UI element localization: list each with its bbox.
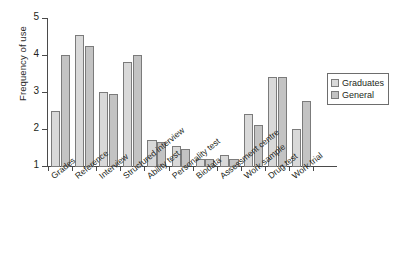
legend-label-general: General bbox=[342, 90, 374, 101]
bar bbox=[75, 35, 84, 167]
x-tick-0 bbox=[48, 166, 49, 171]
bar-chart: Frequency of use 12345 GradesReferenceIn… bbox=[0, 0, 401, 258]
y-tick-3: 3 bbox=[42, 92, 47, 93]
legend-swatch-graduates bbox=[331, 79, 339, 87]
y-tick-5: 5 bbox=[42, 18, 47, 19]
x-tick-5 bbox=[169, 166, 170, 171]
bar bbox=[123, 62, 132, 167]
bar bbox=[51, 111, 60, 168]
y-axis-title: Frequency of use bbox=[17, 0, 28, 134]
y-tick-label-5: 5 bbox=[33, 11, 39, 23]
y-tick-label-3: 3 bbox=[33, 85, 39, 97]
y-tick-label-2: 2 bbox=[33, 122, 39, 134]
y-tick-1: 1 bbox=[42, 166, 47, 167]
legend-label-graduates: Graduates bbox=[342, 78, 384, 89]
bar bbox=[61, 55, 70, 167]
legend: Graduates General bbox=[327, 73, 389, 105]
legend-item-general[interactable]: General bbox=[331, 89, 384, 101]
bar bbox=[85, 46, 94, 167]
legend-item-graduates[interactable]: Graduates bbox=[331, 77, 384, 89]
y-tick-label-1: 1 bbox=[33, 159, 39, 171]
y-tick-4: 4 bbox=[42, 55, 47, 56]
bar bbox=[133, 55, 142, 167]
legend-swatch-general bbox=[331, 91, 339, 99]
y-tick-label-4: 4 bbox=[33, 48, 39, 60]
y-tick-2: 2 bbox=[42, 129, 47, 130]
y-axis-line bbox=[47, 18, 48, 167]
